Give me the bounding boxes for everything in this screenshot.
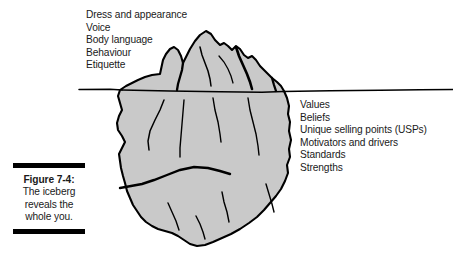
hidden-traits-list: Values Beliefs Unique selling points (US…	[300, 99, 427, 175]
hidden-trait-item: Unique selling points (USPs)	[300, 124, 427, 137]
waterline-left-segment	[79, 89, 122, 90]
figure-number-label: Figure 7-4:	[8, 174, 90, 186]
caption-text: Figure 7-4: The iceberg reveals the whol…	[8, 174, 90, 224]
figure-description-line: whole you.	[8, 211, 90, 223]
visible-trait-item: Body language	[86, 34, 187, 47]
visible-trait-item: Etiquette	[86, 59, 187, 72]
hidden-trait-item: Values	[300, 99, 427, 112]
visible-trait-item: Voice	[86, 22, 187, 35]
hidden-trait-item: Standards	[300, 149, 427, 162]
figure-description: The iceberg reveals the whole you.	[8, 186, 90, 223]
hidden-trait-item: Strengths	[300, 162, 427, 175]
hidden-trait-item: Motivators and drivers	[300, 137, 427, 150]
figure-description-line: The iceberg	[8, 186, 90, 198]
figure-caption: Figure 7-4: The iceberg reveals the whol…	[8, 163, 90, 234]
hidden-trait-item: Beliefs	[300, 112, 427, 125]
caption-rule-bottom	[13, 229, 85, 234]
visible-trait-item: Dress and appearance	[86, 9, 187, 22]
figure-container: Dress and appearance Voice Body language…	[0, 0, 453, 262]
caption-rule-top	[13, 163, 85, 168]
visible-traits-list: Dress and appearance Voice Body language…	[86, 9, 187, 72]
visible-trait-item: Behaviour	[86, 47, 187, 60]
figure-description-line: reveals the	[8, 199, 90, 211]
waterline-right-segment	[283, 89, 453, 91]
